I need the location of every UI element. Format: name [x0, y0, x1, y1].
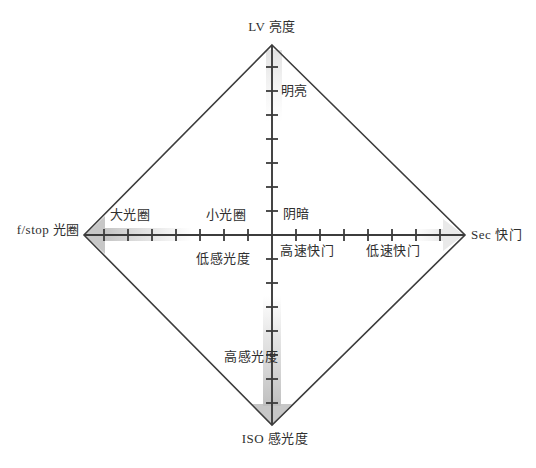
- label-bright: 明亮: [281, 83, 308, 98]
- exposure-diamond-svg: LV 亮度 ISO 感光度 f/stop 光圈 Sec 快门 明亮 阴暗 大光圈…: [0, 0, 536, 468]
- shade-arrows: [85, 50, 464, 424]
- label-low-iso: 低感光度: [196, 251, 250, 266]
- label-large-aperture: 大光圈: [110, 207, 151, 222]
- label-high-iso: 高感光度: [224, 349, 278, 364]
- label-fast-shutter: 高速快门: [280, 243, 334, 258]
- axis-label-iso: ISO 感光度: [242, 431, 309, 446]
- axis-label-sec: Sec 快门: [471, 227, 522, 242]
- label-dark: 阴暗: [283, 206, 310, 221]
- axis-label-fstop: f/stop 光圈: [17, 222, 80, 237]
- axis-label-lv: LV 亮度: [248, 19, 296, 34]
- label-slow-shutter: 低速快门: [366, 243, 420, 258]
- label-small-aperture: 小光圈: [206, 207, 247, 222]
- exposure-diamond-figure: LV 亮度 ISO 感光度 f/stop 光圈 Sec 快门 明亮 阴暗 大光圈…: [0, 0, 536, 468]
